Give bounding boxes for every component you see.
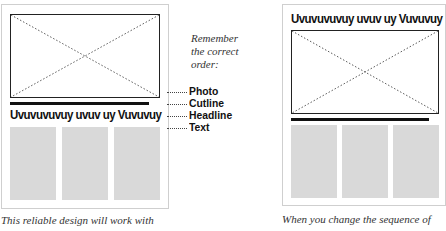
cutline-rule [10,102,149,105]
text-column-3 [393,125,439,198]
right-layout-panel: Uvuvuvuvuy uvuv uy Vuvuvuy [282,4,446,206]
order-cutline: Cutline [189,97,224,109]
leader-dots [167,128,187,129]
text-column-3 [114,127,160,200]
reminder-note: Remember the correct order: [191,32,251,71]
leader-dots [167,104,187,105]
right-caption: When you change the sequence of [282,213,431,225]
cutline-rule [291,118,429,121]
text-column-2 [62,127,108,200]
photo-x-icon [11,15,159,97]
photo-x-icon [292,31,438,113]
text-column-2 [342,125,388,198]
headline: Uvuvuvuvuy uvuv uy Vuvuvuy [291,12,442,26]
photo-placeholder [10,14,160,98]
leader-dots [167,92,187,93]
leader-dots [167,116,187,117]
photo-placeholder [291,30,439,114]
order-text: Text [189,121,210,133]
order-headline: Headline [189,109,232,121]
text-column-1 [10,127,56,200]
left-caption: This reliable design will work with [1,214,154,226]
left-layout-panel: Uvuvuvuvuy uvuv uy Vuvuvuy [1,4,169,209]
headline: Uvuvuvuvuy uvuv uy Vuvuvuy [10,108,161,122]
order-photo: Photo [189,85,218,97]
text-column-1 [291,125,337,198]
